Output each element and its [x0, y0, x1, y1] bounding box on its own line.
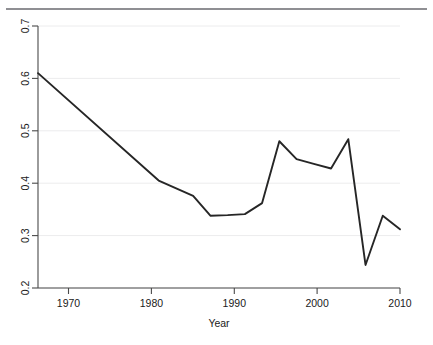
y-tick-marks	[32, 26, 38, 288]
x-tick-label-2000: 2000	[305, 297, 329, 309]
plot-area-background	[38, 26, 400, 288]
chart-svg: 0.7 0.6 0.5 0.4 0.3 0.2 1970 1980 1990 2…	[0, 12, 433, 345]
y-tick-label-0: 0.2	[19, 281, 31, 296]
x-tick-label-2010: 2010	[388, 297, 412, 309]
x-tick-label-1990: 1990	[223, 297, 247, 309]
y-tick-label-2: 0.4	[19, 176, 31, 191]
x-tick-label-1970: 1970	[57, 297, 81, 309]
figure-page: 0.7 0.6 0.5 0.4 0.3 0.2 1970 1980 1990 2…	[0, 0, 433, 345]
top-horizontal-rule	[6, 8, 427, 10]
x-tick-label-1980: 1980	[140, 297, 164, 309]
x-tick-labels: 1970 1980 1990 2000 2010	[57, 297, 412, 309]
y-tick-label-1: 0.3	[19, 228, 31, 243]
y-tick-label-5: 0.7	[19, 19, 31, 34]
y-tick-label-3: 0.5	[19, 123, 31, 138]
y-tick-label-4: 0.6	[19, 71, 31, 86]
x-axis-title: Year	[208, 317, 230, 329]
line-chart-figure: 0.7 0.6 0.5 0.4 0.3 0.2 1970 1980 1990 2…	[0, 12, 433, 345]
x-tick-marks	[69, 288, 401, 294]
y-tick-labels: 0.7 0.6 0.5 0.4 0.3 0.2	[19, 19, 31, 296]
